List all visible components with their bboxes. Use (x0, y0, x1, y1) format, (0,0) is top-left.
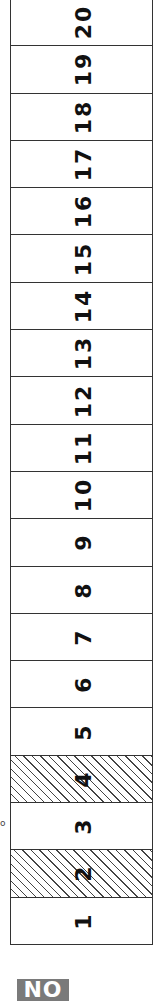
cell-number: 18 (71, 99, 96, 134)
strip-cell-6[interactable]: 6 (11, 660, 152, 707)
strip-cell-13[interactable]: 13 (11, 329, 152, 376)
strip-cell-2[interactable]: 2 (11, 849, 152, 896)
cell-number: 2 (71, 865, 96, 882)
no-badge: NO (17, 979, 69, 1001)
strip-cell-10[interactable]: 10 (11, 471, 152, 518)
cell-number: 5 (71, 723, 96, 740)
cell-number: 6 (71, 676, 96, 693)
strip-cell-18[interactable]: 18 (11, 93, 152, 140)
cell-number: 11 (71, 431, 96, 466)
strip-cell-9[interactable]: 9 (11, 518, 152, 565)
strip-cell-3[interactable]: 3 (11, 802, 152, 849)
cell-number: 16 (71, 194, 96, 229)
cell-number: 20 (71, 5, 96, 40)
strip-cell-4[interactable]: 4 (11, 755, 152, 802)
strip-cell-7[interactable]: 7 (11, 613, 152, 660)
cell-number: 13 (71, 336, 96, 371)
cell-number: 7 (71, 628, 96, 645)
strip-cell-1[interactable]: 1 (11, 897, 152, 944)
strip-cell-5[interactable]: 5 (11, 707, 152, 754)
cell-number: 19 (71, 52, 96, 87)
strip-cell-15[interactable]: 15 (11, 234, 152, 281)
side-mark: o (0, 818, 6, 828)
cell-number: 15 (71, 241, 96, 276)
cell-number: 10 (71, 478, 96, 513)
cell-number: 17 (71, 147, 96, 182)
cell-number: 9 (71, 534, 96, 551)
strip-cell-16[interactable]: 16 (11, 187, 152, 234)
cell-number: 3 (71, 818, 96, 835)
strip-cell-14[interactable]: 14 (11, 282, 152, 329)
strip-cell-8[interactable]: 8 (11, 566, 152, 613)
cell-number: 14 (71, 289, 96, 324)
cell-number: 4 (71, 770, 96, 787)
cell-number: 1 (71, 912, 96, 929)
strip-cell-12[interactable]: 12 (11, 376, 152, 423)
strip-cell-19[interactable]: 19 (11, 45, 152, 92)
strip-cell-17[interactable]: 17 (11, 140, 152, 187)
strip-cell-11[interactable]: 11 (11, 424, 152, 471)
cell-number: 12 (71, 383, 96, 418)
cell-number: 8 (71, 581, 96, 598)
number-strip: 2019181716151413121110987654321 (10, 0, 153, 945)
strip-cell-20[interactable]: 20 (11, 0, 152, 45)
